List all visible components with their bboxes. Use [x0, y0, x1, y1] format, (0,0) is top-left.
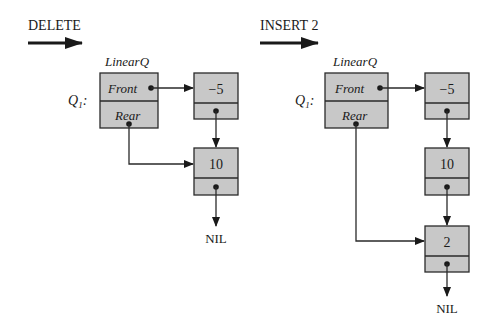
variable-label: Q1:	[68, 93, 87, 110]
front-field: Front	[334, 81, 365, 96]
nil-label: NIL	[436, 301, 458, 316]
record-type-label: LinearQ	[332, 54, 378, 69]
node-value: 10	[209, 157, 223, 172]
queue-record: Front Rear	[325, 73, 388, 128]
queue-diagram: DELETE LinearQ Q1: Front Rear −5	[0, 0, 489, 326]
queue-record: Front Rear	[100, 73, 158, 128]
node-value: 10	[440, 157, 454, 172]
rear-field: Rear	[341, 108, 368, 123]
rear-field: Rear	[114, 108, 141, 123]
rear-arrow-icon	[129, 124, 193, 164]
right-panel-insert: INSERT 2 LinearQ Q1: Front Rear −5 10	[260, 18, 469, 316]
front-field: Front	[107, 81, 138, 96]
rear-arrow-icon	[356, 124, 424, 241]
left-panel-delete: DELETE LinearQ Q1: Front Rear −5	[28, 18, 238, 246]
record-type-label: LinearQ	[104, 54, 150, 69]
variable-label: Q1:	[295, 93, 314, 110]
node-value: −5	[440, 82, 455, 97]
node-value: 2	[444, 235, 451, 250]
operation-label: DELETE	[28, 18, 81, 33]
operation-label: INSERT 2	[260, 18, 318, 33]
nil-label: NIL	[205, 231, 227, 246]
node-value: −5	[209, 82, 224, 97]
